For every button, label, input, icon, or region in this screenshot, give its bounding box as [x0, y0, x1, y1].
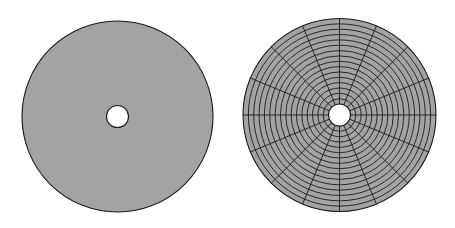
meshed-annular-disk — [243, 19, 436, 212]
annular-disk-figure — [0, 0, 455, 228]
solid-annular-disk — [22, 21, 213, 212]
center-hole — [107, 106, 129, 128]
figure-stage — [0, 0, 455, 228]
center-hole — [329, 104, 351, 126]
